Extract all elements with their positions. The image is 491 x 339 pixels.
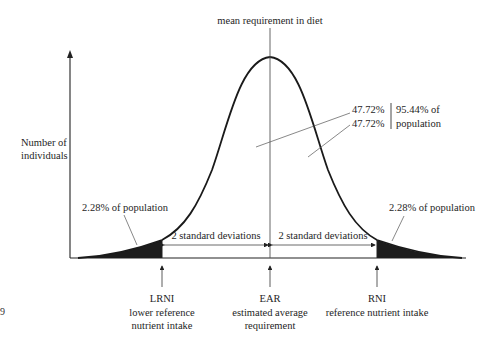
marker-rni: RNI reference nutrient intake [326, 292, 429, 319]
normal-distribution-diagram [0, 0, 491, 339]
marker-rni-abbr: RNI [326, 292, 429, 306]
marker-lrni-abbr: LRNI [129, 292, 195, 306]
left-tail-label: 2.28% of population [82, 201, 168, 214]
sd-left-label: 2 standard deviations [171, 229, 260, 242]
marker-ear-desc1: estimated average [232, 306, 308, 320]
y-axis-arrow-icon [67, 50, 73, 58]
mean-requirement-label: mean requirement in diet [217, 14, 322, 27]
y-axis-label-line1: Number of [21, 136, 68, 149]
center-total-line2: population [396, 117, 441, 130]
y-axis-label: Number of individuals [21, 136, 68, 162]
center-total-line1: 95.44% of [396, 103, 441, 116]
marker-ear: EAR estimated average requirement [232, 292, 308, 333]
marker-rni-desc1: reference nutrient intake [326, 306, 429, 320]
page-mark: 9 [0, 306, 5, 317]
center-pct-lower: 47.72% [352, 117, 384, 130]
marker-ear-desc2: requirement [232, 319, 308, 333]
right-tail-leader [392, 216, 404, 241]
right-tail-label: 2.28% of population [389, 201, 475, 214]
y-axis-label-line2: individuals [21, 149, 68, 162]
left-tail-leader [124, 215, 137, 245]
marker-ear-abbr: EAR [232, 292, 308, 306]
marker-lrni: LRNI lower reference nutrient intake [129, 292, 195, 333]
marker-lrni-desc2: nutrient intake [129, 319, 195, 333]
center-pct-upper: 47.72% [352, 103, 384, 116]
left-tail-shaded-area [80, 240, 162, 258]
sd-right-label: 2 standard deviations [278, 229, 367, 242]
marker-lrni-desc1: lower reference [129, 306, 195, 320]
center-total-label: 95.44% of population [396, 103, 441, 130]
right-tail-shaded-area [377, 240, 460, 258]
